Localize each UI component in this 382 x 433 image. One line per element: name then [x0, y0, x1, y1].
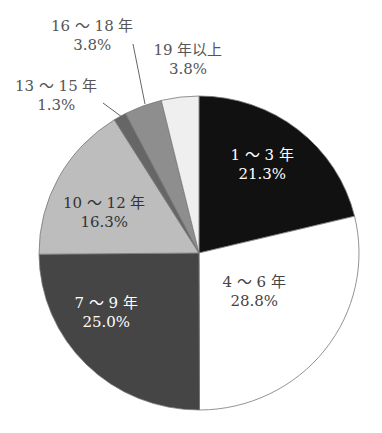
slice-label-value: 3.8% [154, 60, 223, 79]
slice-label-value: 28.8% [223, 292, 286, 311]
leader-line [133, 44, 145, 104]
slice-label-category: 7 ～ 9 年 [75, 294, 138, 313]
slice-label: 4 ～ 6 年28.8% [223, 273, 286, 311]
leader-line [103, 103, 122, 117]
slice-label-value: 1.3% [15, 96, 97, 115]
slice-label: 10 ～ 12 年16.3% [63, 194, 145, 232]
slice-label-category: 1 ～ 3 年 [231, 146, 294, 165]
slice-label-value: 25.0% [75, 313, 138, 332]
slice-label-category: 16 ～ 18 年 [51, 17, 133, 36]
slice-label: 19 年以上3.8% [154, 41, 223, 79]
slice-label: 7 ～ 9 年25.0% [75, 294, 138, 332]
slice-label-category: 4 ～ 6 年 [223, 273, 286, 292]
slice-label-category: 19 年以上 [154, 41, 223, 60]
slice-label: 16 ～ 18 年3.8% [51, 17, 133, 55]
slice-label-value: 3.8% [51, 36, 133, 55]
slice-label-value: 16.3% [63, 213, 145, 232]
slice-label: 1 ～ 3 年21.3% [231, 146, 294, 184]
pie-slices [39, 96, 359, 410]
slice-label: 13 ～ 15 年1.3% [15, 77, 97, 115]
slice-label-value: 21.3% [231, 165, 294, 184]
slice-label-category: 13 ～ 15 年 [15, 77, 97, 96]
slice-label-category: 10 ～ 12 年 [63, 194, 145, 213]
